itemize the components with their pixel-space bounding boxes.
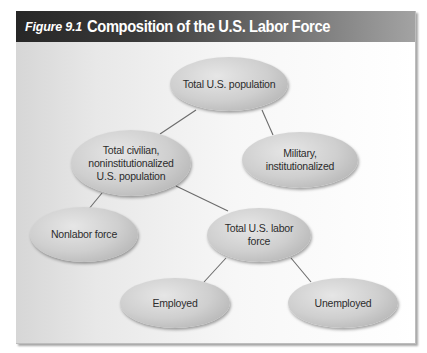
node-unemployed: Unemployed — [288, 278, 398, 328]
node-nonlabor-force: Nonlabor force — [30, 207, 138, 262]
node-military-institutionalized: Military, institutionalized — [242, 132, 358, 188]
edge-labor-employed — [204, 258, 226, 282]
node-employed: Employed — [120, 278, 230, 328]
edge-total-military — [262, 110, 273, 135]
node-total-population: Total U.S. population — [170, 57, 288, 111]
edge-labor-unemployed — [291, 258, 311, 282]
edge-civilian-labor — [176, 186, 228, 211]
edge-total-civilian — [160, 110, 196, 134]
node-labor-force: Total U.S. labor force — [207, 208, 311, 262]
node-civilian-population: Total civilian, noninstitutionalized U.S… — [71, 130, 191, 196]
